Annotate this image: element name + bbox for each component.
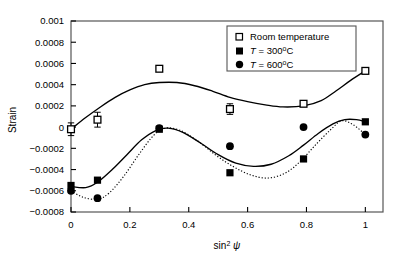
y-tick-label: 0.001: [40, 15, 64, 26]
marker-filled-square: [94, 177, 101, 184]
legend-label-room-temperature: Room temperature: [250, 31, 329, 42]
legend-label-300c: T = 300oC: [250, 45, 293, 56]
marker-open-square: [68, 126, 75, 133]
x-tick-label: 0.8: [300, 219, 313, 230]
legend-item-room-temperature: Room temperature: [236, 31, 329, 42]
y-tick-label: 0.0008: [35, 37, 64, 48]
marker-open-square: [227, 106, 234, 113]
y-tick-label: −0.0006: [29, 185, 64, 196]
marker-open-square: [156, 65, 163, 72]
y-tick-label: −0.0002: [29, 143, 64, 154]
legend-label-600c: T = 600oC: [250, 59, 293, 70]
x-tick-label: 0.4: [182, 219, 195, 230]
marker-filled-square: [300, 155, 307, 162]
chart-legend: Room temperature T = 300oC T = 600oC: [227, 26, 356, 71]
open-square-icon: [236, 34, 243, 41]
strain-vs-sin2psi-chart: −0.0008−0.0006−0.0004−0.000200.00020.000…: [0, 0, 401, 260]
chart-figure: −0.0008−0.0006−0.0004−0.000200.00020.000…: [0, 0, 401, 260]
marker-filled-circle: [67, 187, 75, 195]
y-axis-label: Strain: [7, 107, 18, 133]
x-axis-label-sin: sin: [214, 240, 227, 251]
marker-open-square: [362, 67, 369, 74]
x-tick-label: 0: [68, 219, 73, 230]
marker-filled-circle: [226, 142, 234, 150]
x-tick-label: 1: [363, 219, 368, 230]
y-tick-label: −0.0004: [29, 164, 64, 175]
marker-filled-circle: [361, 131, 369, 139]
x-tick-label: 0.2: [123, 219, 136, 230]
marker-open-square: [94, 116, 101, 123]
marker-filled-circle: [94, 194, 102, 202]
marker-open-square: [300, 100, 307, 107]
y-tick-label: 0: [59, 122, 64, 133]
marker-filled-square: [226, 169, 233, 176]
filled-circle-icon: [236, 61, 243, 68]
y-tick-label: 0.0004: [35, 79, 64, 90]
filled-square-icon: [236, 48, 243, 55]
y-tick-label: −0.0008: [29, 206, 64, 217]
marker-filled-square: [362, 118, 369, 125]
y-tick-label: 0.0006: [35, 58, 64, 69]
marker-filled-circle: [300, 123, 308, 131]
x-tick-label: 0.6: [241, 219, 254, 230]
y-tick-label: 0.0002: [35, 100, 64, 111]
marker-filled-circle: [155, 124, 163, 132]
